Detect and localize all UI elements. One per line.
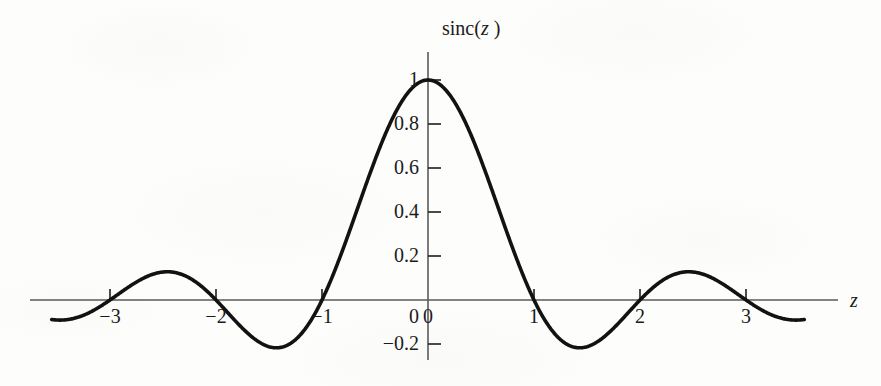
- y-axis-title-prefix: sinc(: [442, 17, 481, 39]
- x-axis-title: z: [850, 290, 858, 310]
- x-axis-tick-label: 1: [506, 306, 562, 326]
- x-axis-tick-label: 2: [612, 306, 668, 326]
- plot-canvas: [0, 0, 881, 386]
- sinc-function-figure: −3−2−10123 −0.200.20.40.60.81 sinc(z ) z: [0, 0, 881, 386]
- y-axis-title-variable: z: [481, 17, 489, 39]
- y-axis-tick-label: 0.8: [329, 113, 419, 133]
- x-axis-tick-label: 3: [718, 306, 774, 326]
- y-axis-title-suffix: ): [489, 17, 501, 39]
- y-axis-tick-label: 0.4: [329, 201, 419, 221]
- y-axis-tick-label: 1: [329, 69, 419, 89]
- y-axis-tick-label: 0.6: [329, 157, 419, 177]
- x-axis-tick-label: −2: [188, 306, 244, 326]
- y-axis-title: sinc(z ): [442, 18, 500, 38]
- x-axis-title-variable: z: [850, 289, 858, 311]
- y-axis-tick-label: 0: [329, 306, 419, 326]
- x-axis-tick-label: −3: [82, 306, 138, 326]
- y-axis-tick-label: −0.2: [329, 333, 419, 353]
- y-axis-tick-label: 0.2: [329, 245, 419, 265]
